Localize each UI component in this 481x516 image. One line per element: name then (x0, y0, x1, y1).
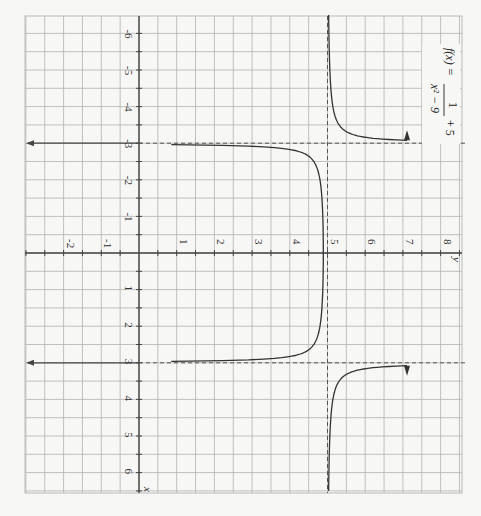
y-tick-label: -1 (102, 239, 114, 248)
y-tick-label: 8 (442, 239, 454, 245)
formula-tail: + 5 (443, 120, 457, 136)
x-tick-label: -2 (123, 176, 135, 185)
formula-numerator: 1 (446, 102, 460, 108)
x-tick-label: 1 (123, 286, 135, 292)
formula-denominator: x² − 9 (428, 83, 442, 113)
y-tick-label: 3 (253, 239, 265, 245)
x-tick-label: -6 (123, 29, 135, 39)
x-axis-label: x (142, 486, 154, 492)
rotated-function-graph: -6-5-4-3-2-1123456-2-112345678 x y f(x) … (0, 0, 481, 516)
formula-lhs: f(x) = (443, 48, 457, 76)
y-tick-label: 6 (366, 239, 378, 245)
x-tick-label: 4 (123, 395, 135, 401)
x-tick-label: -1 (123, 212, 135, 221)
y-tick-label: -2 (65, 239, 77, 248)
x-tick-label: -5 (123, 66, 135, 76)
x-tick-label: 5 (123, 432, 135, 438)
x-tick-label: -3 (123, 139, 135, 149)
x-tick-label: 2 (123, 322, 135, 328)
page-background (0, 0, 481, 516)
y-axis-label: y (451, 256, 463, 262)
y-tick-label: 7 (404, 239, 416, 245)
x-tick-label: -4 (123, 103, 135, 113)
function-formula: f(x) = 1 x² − 9 + 5 (422, 44, 460, 144)
y-tick-label: 5 (329, 239, 341, 245)
x-tick-label: 6 (123, 469, 135, 475)
y-tick-label: 1 (178, 239, 190, 245)
y-tick-label: 2 (215, 239, 227, 245)
x-tick-label: 3 (123, 359, 135, 365)
y-tick-label: 4 (291, 239, 303, 245)
